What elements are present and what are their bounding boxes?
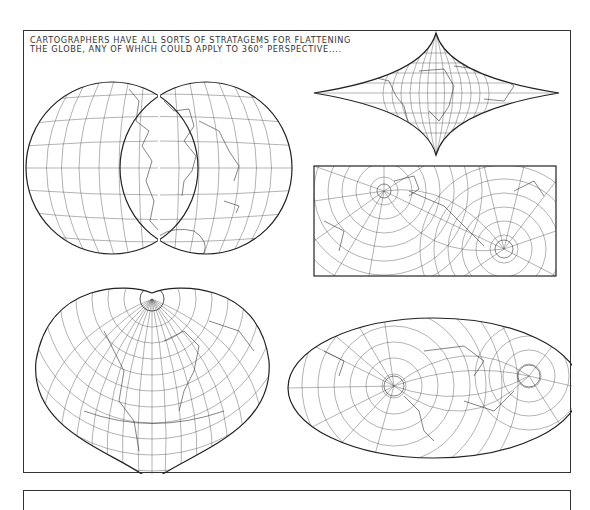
comic-panel: CARTOGRAPHERS HAVE ALL SORTS OF STRATAGE…: [23, 30, 571, 473]
oblique-ellipse-map: [270, 262, 572, 474]
interrupted-twin-hemispheres-map: [24, 71, 304, 265]
pointed-lens-map: [304, 33, 569, 155]
heart-shaped-map: [24, 127, 324, 474]
map-projections-illustration: [24, 31, 572, 474]
next-comic-panel: [23, 490, 571, 510]
rectangular-oblique-map: [286, 93, 572, 333]
